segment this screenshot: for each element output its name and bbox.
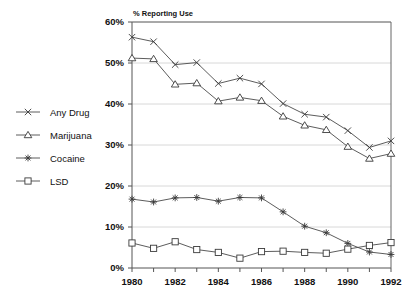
data-point-marker (366, 242, 372, 248)
x-axis-tick-label: 1988 (294, 276, 315, 287)
data-point-marker (344, 143, 352, 149)
data-point-marker (215, 249, 221, 255)
chart-legend: Any DrugMarijuanaCocaineLSD (16, 107, 92, 187)
legend-item-label: LSD (50, 176, 69, 187)
line-chart: 0%10%20%30%40%50%60% 1980198219841986198… (0, 0, 411, 301)
x-axis-tick-label: 1990 (337, 276, 358, 287)
series-path (132, 197, 391, 254)
axis-ticks (128, 22, 391, 272)
y-axis-tick-label: 30% (105, 139, 125, 150)
legend-item-cocaine[interactable]: Cocaine (16, 153, 85, 164)
data-point-marker (302, 249, 308, 255)
series-any-drug (129, 34, 394, 151)
x-axis-tick-label: 1984 (208, 276, 230, 287)
legend-item-lsd[interactable]: LSD (16, 176, 69, 187)
legend-item-label: Cocaine (50, 153, 85, 164)
y-axis-tick-label: 60% (105, 16, 125, 27)
series-path (132, 58, 391, 158)
data-point-marker (388, 239, 394, 245)
legend-marker-square-icon (25, 178, 31, 184)
data-point-marker (150, 245, 156, 251)
data-point-marker (279, 113, 287, 119)
legend-item-label: Marijuana (50, 130, 92, 141)
data-point-marker (236, 94, 244, 100)
x-axis-tick-label: 1992 (380, 276, 401, 287)
data-point-marker (128, 54, 136, 60)
series-path (132, 37, 391, 147)
data-point-marker (172, 239, 178, 245)
data-point-marker (301, 122, 309, 128)
data-point-marker (194, 246, 200, 252)
legend-marker-triangle-icon (24, 131, 32, 137)
data-point-marker (129, 240, 135, 246)
data-point-marker (345, 246, 351, 252)
y-axis-tick-label: 40% (105, 98, 125, 109)
y-axis-labels: 0%10%20%30%40%50%60% (105, 16, 125, 273)
data-point-marker (193, 79, 201, 85)
chart-title: % Reporting Use (133, 9, 193, 18)
y-axis-tick-label: 10% (105, 221, 125, 232)
x-axis-tick-label: 1982 (165, 276, 186, 287)
y-axis-tick-label: 20% (105, 180, 125, 191)
legend-item-marijuana[interactable]: Marijuana (16, 130, 92, 141)
data-point-marker (258, 249, 264, 255)
data-point-marker (237, 255, 243, 261)
y-axis-tick-label: 50% (105, 57, 125, 68)
data-point-marker (323, 250, 329, 256)
series-lsd (129, 239, 394, 262)
legend-item-any-drug[interactable]: Any Drug (16, 107, 90, 118)
x-axis-labels: 1980198219841986198819901992 (121, 276, 401, 287)
y-axis-tick-label: 0% (110, 262, 124, 273)
x-axis-tick-label: 1986 (251, 276, 272, 287)
x-axis-tick-label: 1980 (121, 276, 142, 287)
chart-container: 0%10%20%30%40%50%60% 1980198219841986198… (0, 0, 411, 301)
data-point-marker (280, 248, 286, 254)
legend-item-label: Any Drug (50, 107, 90, 118)
data-point-marker (387, 150, 395, 156)
